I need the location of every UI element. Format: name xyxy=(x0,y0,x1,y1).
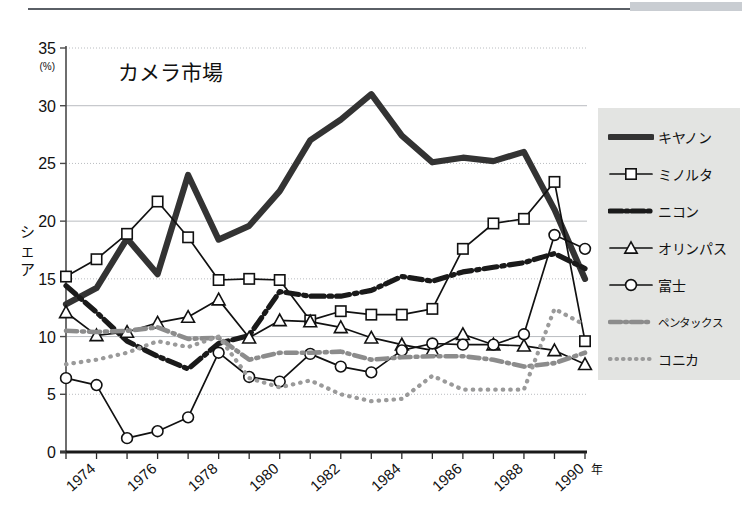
svg-text:1984: 1984 xyxy=(368,460,404,495)
page-top-rule-shade xyxy=(630,2,742,11)
svg-text:1978: 1978 xyxy=(184,460,220,495)
legend-key-icon xyxy=(608,349,654,369)
svg-text:ェ: ェ xyxy=(20,242,35,260)
legend-key-icon xyxy=(608,164,654,184)
svg-text:10: 10 xyxy=(38,329,56,346)
legend-item-6[interactable]: ペンタックス xyxy=(598,305,740,339)
legend-key-icon xyxy=(608,312,654,332)
legend-item-label: ミノルタ xyxy=(658,164,713,184)
svg-text:1976: 1976 xyxy=(123,460,159,495)
svg-text:シ: シ xyxy=(20,223,35,241)
legend-item-label: ペンタックス xyxy=(658,314,722,330)
svg-text:35: 35 xyxy=(38,40,56,57)
svg-text:20: 20 xyxy=(38,213,56,230)
legend-item-label: キヤノン xyxy=(658,127,712,147)
chart-plot-area: 05101520253035(%)シェア19741976197819801982… xyxy=(0,30,610,520)
svg-text:25: 25 xyxy=(38,155,56,172)
legend-item-label: コニカ xyxy=(658,349,699,369)
legend-item-3[interactable]: ニコン xyxy=(598,194,740,228)
svg-text:1974: 1974 xyxy=(62,460,98,495)
legend-item-label: 富士 xyxy=(658,275,685,295)
series-lines xyxy=(60,94,592,443)
svg-text:15: 15 xyxy=(38,271,56,288)
legend-key-icon xyxy=(608,275,654,295)
svg-text:30: 30 xyxy=(38,98,56,115)
legend-item-2[interactable]: ミノルタ xyxy=(598,157,740,191)
legend-item-label: オリンパス xyxy=(658,238,727,258)
svg-text:1982: 1982 xyxy=(307,460,343,495)
svg-text:5: 5 xyxy=(47,386,56,403)
legend-item-1[interactable]: キヤノン xyxy=(598,120,740,154)
svg-text:(%): (%) xyxy=(39,61,55,72)
legend-key-icon xyxy=(608,127,654,147)
series-thick-solid xyxy=(66,94,585,304)
svg-text:1990: 1990 xyxy=(551,460,587,495)
series-dotted-gray xyxy=(66,309,585,401)
legend-key-icon xyxy=(608,201,654,221)
legend-item-5[interactable]: 富士 xyxy=(598,268,740,302)
svg-text:1980: 1980 xyxy=(246,460,282,495)
svg-text:年: 年 xyxy=(591,463,603,477)
svg-text:1986: 1986 xyxy=(429,460,465,495)
legend-key-icon xyxy=(608,238,654,258)
legend-item-4[interactable]: オリンパス xyxy=(598,231,740,265)
svg-text:カメラ市場: カメラ市場 xyxy=(118,61,223,85)
svg-text:0: 0 xyxy=(47,444,56,461)
svg-text:1988: 1988 xyxy=(490,460,526,495)
chart-page: 05101520253035(%)シェア19741976197819801982… xyxy=(0,0,745,528)
camera-market-line-chart: 05101520253035(%)シェア19741976197819801982… xyxy=(0,30,610,520)
svg-text:ア: ア xyxy=(20,261,35,279)
legend-item-label: ニコン xyxy=(658,201,699,221)
series-solid xyxy=(61,177,590,347)
chart-legend: キヤノンミノルタニコンオリンパス富士ペンタックスコニカ xyxy=(598,108,740,380)
legend-item-7[interactable]: コニカ xyxy=(598,342,740,376)
